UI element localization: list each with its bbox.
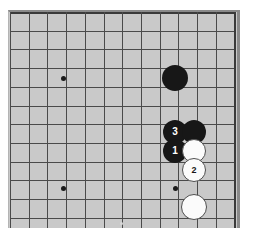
paper-speck xyxy=(120,222,123,225)
board-surface xyxy=(8,10,240,228)
go-board-diagram: 312 xyxy=(0,0,256,228)
